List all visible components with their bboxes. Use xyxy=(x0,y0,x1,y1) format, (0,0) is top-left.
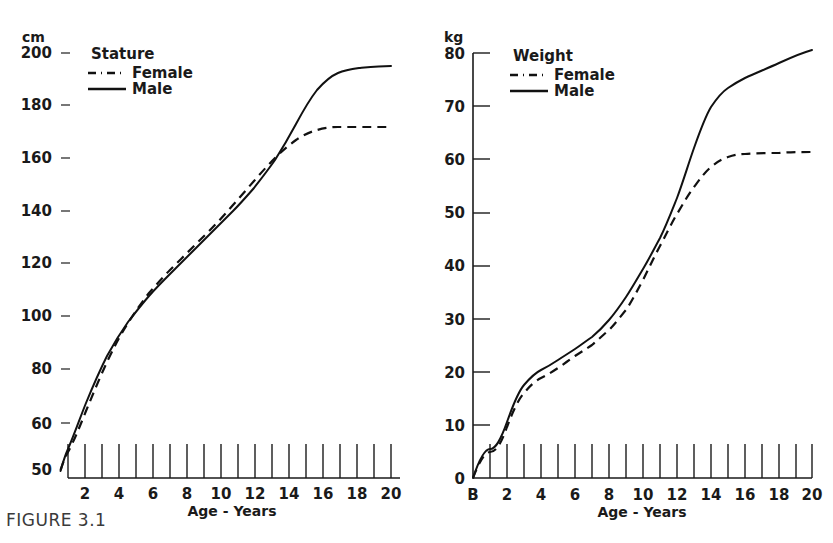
weight-xtick-20: 20 xyxy=(802,486,823,504)
stature-xtick-12: 12 xyxy=(245,485,266,503)
weight-y-unit-label: kg xyxy=(444,29,463,45)
weight-legend: Weight Female Male xyxy=(510,47,615,100)
weight-xtick-birth: B xyxy=(467,486,478,504)
weight-xtick-8: 8 xyxy=(604,486,614,504)
weight-legend-title: Weight xyxy=(513,47,573,65)
weight-xtick-10: 10 xyxy=(633,486,654,504)
stature-xtick-4: 4 xyxy=(114,485,124,503)
stature-legend: Stature Female Male xyxy=(88,45,193,98)
stature-ytick-100: 100 xyxy=(21,307,52,325)
figure-caption: FIGURE 3.1 xyxy=(6,510,106,530)
stature-y-tick-marks xyxy=(61,53,70,423)
weight-ytick-70: 70 xyxy=(444,98,465,116)
stature-ytick-160: 160 xyxy=(21,149,52,167)
weight-x-axis-title: Age - Years xyxy=(598,504,687,520)
stature-ytick-180: 180 xyxy=(21,96,52,114)
stature-xtick-6: 6 xyxy=(148,485,158,503)
stature-xtick-16: 16 xyxy=(313,485,334,503)
stature-ytick-200: 200 xyxy=(21,44,52,62)
weight-x-tick-marks xyxy=(490,444,812,478)
weight-xtick-12: 12 xyxy=(667,486,688,504)
weight-curve-male xyxy=(473,50,812,478)
stature-ytick-80: 80 xyxy=(31,360,52,378)
figure-root: cm 200 180 160 140 120 100 80 60 50 xyxy=(0,0,833,543)
stature-curve-female xyxy=(61,127,392,470)
stature-xtick-10: 10 xyxy=(211,485,232,503)
stature-chart-panel: cm 200 180 160 140 120 100 80 60 50 xyxy=(0,0,420,543)
weight-xtick-4: 4 xyxy=(536,486,546,504)
weight-ytick-30: 30 xyxy=(444,311,465,329)
stature-chart-svg: cm 200 180 160 140 120 100 80 60 50 xyxy=(0,0,420,543)
weight-ytick-0: 0 xyxy=(455,470,465,488)
weight-xtick-18: 18 xyxy=(769,486,790,504)
weight-ytick-50: 50 xyxy=(444,204,465,222)
stature-curve-male xyxy=(61,66,392,471)
stature-xtick-20: 20 xyxy=(381,485,402,503)
stature-legend-title: Stature xyxy=(91,45,155,63)
stature-xtick-2: 2 xyxy=(80,485,90,503)
weight-xtick-6: 6 xyxy=(570,486,580,504)
stature-xtick-14: 14 xyxy=(279,485,300,503)
stature-x-axis-title: Age - Years xyxy=(188,503,277,519)
stature-legend-male-label: Male xyxy=(132,80,172,98)
stature-ytick-120: 120 xyxy=(21,254,52,272)
weight-curve-female xyxy=(473,152,812,478)
stature-ytick-140: 140 xyxy=(21,202,52,220)
weight-xtick-16: 16 xyxy=(735,486,756,504)
stature-plot-area xyxy=(61,66,392,471)
stature-ytick-60: 60 xyxy=(31,415,52,433)
stature-xtick-8: 8 xyxy=(182,485,192,503)
weight-xtick-14: 14 xyxy=(701,486,722,504)
weight-chart-svg: kg 80 70 60 50 40 30 20 10 0 xyxy=(420,0,833,543)
weight-ytick-60: 60 xyxy=(444,151,465,169)
weight-ytick-80: 80 xyxy=(444,45,465,63)
weight-ytick-20: 20 xyxy=(444,364,465,382)
stature-ytick-50: 50 xyxy=(31,461,52,479)
weight-ytick-10: 10 xyxy=(444,417,465,435)
stature-x-tick-marks xyxy=(68,444,391,478)
weight-xtick-2: 2 xyxy=(502,486,512,504)
weight-y-tick-marks xyxy=(473,53,490,425)
stature-xtick-18: 18 xyxy=(347,485,368,503)
weight-chart-panel: kg 80 70 60 50 40 30 20 10 0 xyxy=(420,0,833,543)
weight-legend-male-label: Male xyxy=(554,82,594,100)
stature-y-unit-label: cm xyxy=(22,29,45,45)
weight-plot-area xyxy=(473,50,812,478)
weight-ytick-40: 40 xyxy=(444,257,465,275)
